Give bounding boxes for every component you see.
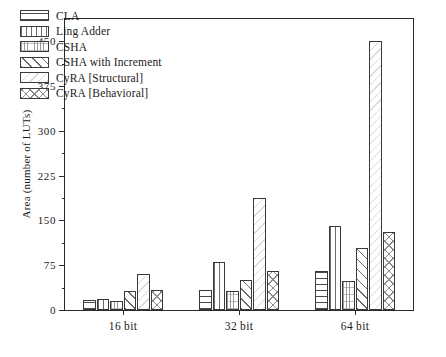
legend-item-label: CSHA with Increment bbox=[56, 56, 162, 68]
bar-csha-with-increment-32-bit bbox=[240, 280, 253, 310]
bar-cyra-structural-32-bit bbox=[253, 198, 266, 310]
bar-cyra-behavioral-32-bit bbox=[267, 271, 280, 310]
y-axis-minor-tick bbox=[62, 153, 66, 154]
y-axis-tick-label: 225 bbox=[38, 170, 56, 182]
y-axis-tick bbox=[59, 220, 65, 221]
x-axis-tick bbox=[123, 310, 124, 315]
x-axis-tick bbox=[239, 310, 240, 315]
legend-swatch-icon bbox=[20, 57, 49, 68]
legend-swatch-icon bbox=[20, 10, 49, 21]
bar-ling-adder-16-bit bbox=[97, 299, 110, 310]
bar-cla-32-bit bbox=[199, 290, 212, 310]
bar-cyra-behavioral-64-bit bbox=[383, 232, 396, 310]
legend-item-label: Ling Adder bbox=[56, 25, 110, 37]
y-axis-tick bbox=[59, 131, 65, 132]
y-axis-tick bbox=[59, 310, 65, 311]
x-axis-tick-label: 16 bit bbox=[109, 320, 137, 332]
bar-csha-with-increment-16-bit bbox=[124, 291, 137, 310]
x-axis-tick bbox=[355, 310, 356, 315]
legend-item-label: CSHA bbox=[56, 41, 87, 53]
legend-item: CyRA [Structural] bbox=[20, 71, 162, 84]
y-axis-tick-label: 0 bbox=[50, 304, 56, 316]
y-axis-tick-label: 150 bbox=[38, 214, 56, 226]
legend-item: CLA bbox=[20, 9, 162, 22]
bar-csha-32-bit bbox=[226, 291, 239, 310]
y-axis-minor-tick bbox=[62, 198, 66, 199]
bar-csha-with-increment-64-bit bbox=[356, 248, 369, 310]
y-axis-minor-tick bbox=[62, 243, 66, 244]
y-axis-tick-label: 300 bbox=[38, 125, 56, 137]
legend-item-label: CyRA [Structural] bbox=[56, 72, 143, 84]
legend-item-label: CyRA [Behavioral] bbox=[56, 87, 148, 99]
bar-cyra-structural-16-bit bbox=[137, 274, 150, 310]
legend-item-label: CLA bbox=[56, 10, 79, 22]
y-axis-minor-tick bbox=[62, 288, 66, 289]
legend-item: CSHA with Increment bbox=[20, 56, 162, 69]
bar-cyra-structural-64-bit bbox=[369, 41, 382, 310]
y-axis-tick bbox=[59, 265, 65, 266]
chart-legend: CLALing AdderCSHACSHA with IncrementCyRA… bbox=[20, 9, 162, 100]
bar-cyra-behavioral-16-bit bbox=[151, 290, 164, 310]
legend-item: CSHA bbox=[20, 40, 162, 53]
x-axis-tick-label: 64 bit bbox=[341, 320, 369, 332]
legend-item: Ling Adder bbox=[20, 25, 162, 38]
y-axis-tick bbox=[59, 176, 65, 177]
bar-cla-64-bit bbox=[315, 271, 328, 310]
bar-csha-64-bit bbox=[342, 281, 355, 310]
legend-item: CyRA [Behavioral] bbox=[20, 87, 162, 100]
y-axis-minor-tick bbox=[62, 108, 66, 109]
legend-swatch-icon bbox=[20, 41, 49, 52]
bar-ling-adder-32-bit bbox=[213, 262, 226, 310]
legend-swatch-icon bbox=[20, 72, 49, 83]
bar-csha-16-bit bbox=[110, 301, 123, 310]
x-axis-tick-label: 32 bit bbox=[225, 320, 253, 332]
y-axis-tick-label: 75 bbox=[44, 259, 56, 271]
bar-chart-figure: Area (number of LUTs) 075150225300375450… bbox=[0, 0, 446, 357]
legend-swatch-icon bbox=[20, 26, 49, 37]
bar-cla-16-bit bbox=[83, 300, 96, 310]
bar-ling-adder-64-bit bbox=[329, 226, 342, 310]
legend-swatch-icon bbox=[20, 88, 49, 99]
